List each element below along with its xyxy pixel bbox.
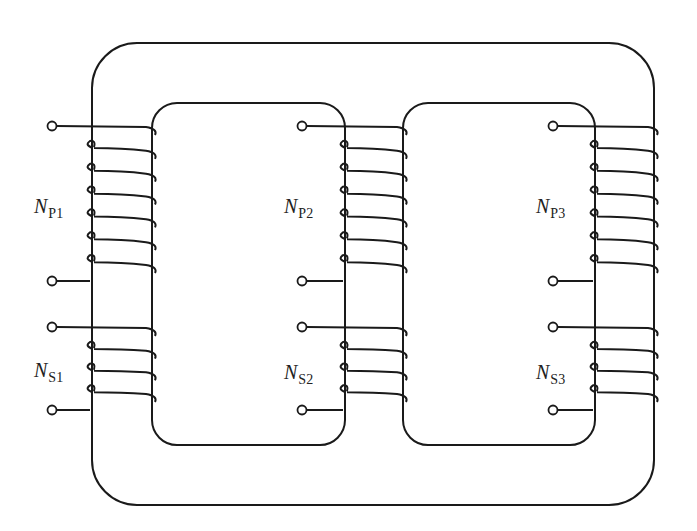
- secondary-terminal-bottom-limb-2: [298, 406, 307, 415]
- label-np2: NP2: [284, 196, 313, 216]
- secondary-terminal-top-limb-1: [48, 323, 57, 332]
- label-ns2: NS2: [284, 362, 313, 382]
- secondary-terminal-top-limb-3: [549, 323, 558, 332]
- primary-terminal-top-limb-2: [298, 122, 307, 131]
- core-outer-outline: [92, 43, 654, 505]
- primary-terminal-top-limb-3: [549, 122, 558, 131]
- primary-winding-limb-3: [591, 141, 658, 273]
- primary-lead-in-limb-1: [57, 126, 156, 135]
- primary-terminal-bottom-limb-2: [298, 277, 307, 286]
- primary-terminal-top-limb-1: [48, 122, 57, 131]
- secondary-lead-in-limb-1: [57, 327, 156, 336]
- secondary-terminal-bottom-limb-3: [549, 406, 558, 415]
- secondary-winding-limb-1: [88, 342, 156, 402]
- primary-lead-in-limb-3: [558, 126, 658, 135]
- transformer-diagram: [0, 0, 697, 531]
- label-np1: NP1: [34, 196, 63, 216]
- label-ns3: NS3: [536, 362, 565, 382]
- secondary-terminal-bottom-limb-1: [48, 406, 57, 415]
- secondary-winding-limb-2: [341, 342, 407, 402]
- secondary-lead-in-limb-3: [558, 327, 658, 336]
- primary-winding-limb-2: [341, 141, 407, 273]
- label-ns1: NS1: [34, 360, 63, 380]
- transformer-core: [92, 43, 654, 505]
- label-np3: NP3: [536, 196, 565, 216]
- primary-terminal-bottom-limb-1: [48, 277, 57, 286]
- windings: [57, 126, 658, 410]
- primary-terminal-bottom-limb-3: [549, 277, 558, 286]
- core-window-1: [152, 103, 345, 445]
- secondary-winding-limb-3: [591, 342, 658, 402]
- primary-lead-in-limb-2: [307, 126, 407, 135]
- primary-winding-limb-1: [88, 141, 156, 273]
- core-window-2: [403, 103, 595, 445]
- secondary-terminal-top-limb-2: [298, 323, 307, 332]
- secondary-lead-in-limb-2: [307, 327, 407, 336]
